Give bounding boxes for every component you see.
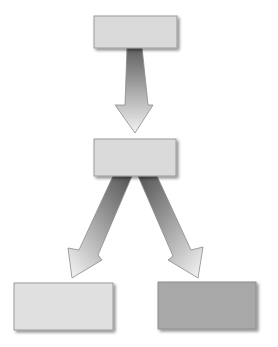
arrow-middle-to-bottom-right — [138, 176, 203, 278]
arrow-top-to-middle — [115, 47, 153, 133]
flow-diagram — [0, 0, 278, 347]
node-bottom-right — [158, 282, 256, 329]
node-middle — [94, 139, 176, 176]
node-top — [94, 16, 177, 48]
arrow-middle-to-bottom-left — [68, 176, 132, 278]
node-bottom-left — [14, 283, 113, 330]
